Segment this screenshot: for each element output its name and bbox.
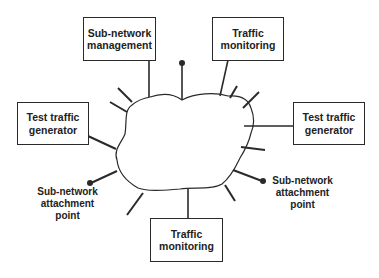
test-traffic-generator-left-box: Test traffic generator xyxy=(17,102,89,145)
attachment-left-line1: Sub-network xyxy=(30,186,105,198)
traffic-monitoring-top-box: Traffic monitoring xyxy=(212,17,284,61)
attachment-line-left xyxy=(91,171,117,183)
test-traffic-generator-left-label-line2: generator xyxy=(27,124,80,137)
sub-network-cloud xyxy=(116,94,254,191)
spoke xyxy=(127,193,143,215)
attachment-right-line2: attachment xyxy=(265,187,340,199)
connector-test-traffic-generator-left xyxy=(88,136,116,149)
attachment-right-line1: Sub-network xyxy=(265,175,340,187)
network-diagram: Sub-network management Traffic monitorin… xyxy=(0,0,379,278)
attachment-line-right xyxy=(233,170,262,181)
test-traffic-generator-left-label-line1: Test traffic xyxy=(27,111,80,124)
traffic-monitoring-bottom-label-line1: Traffic xyxy=(159,228,214,241)
traffic-monitoring-top-label-line2: monitoring xyxy=(221,39,276,52)
sub-network-management-label-line2: management xyxy=(87,39,152,52)
spoke xyxy=(225,185,235,201)
traffic-monitoring-top-label-line1: Traffic xyxy=(221,27,276,40)
test-traffic-generator-right-box: Test traffic generator xyxy=(293,102,365,145)
traffic-monitoring-bottom-label-line2: monitoring xyxy=(159,240,214,253)
sub-network-management-box: Sub-network management xyxy=(83,17,156,61)
connector-traffic-monitoring-top xyxy=(220,60,228,96)
attachment-left-line2: attachment xyxy=(30,198,105,210)
traffic-monitoring-bottom-box: Traffic monitoring xyxy=(150,218,223,262)
attachment-point-right-label: Sub-network attachment point xyxy=(265,175,340,211)
test-traffic-generator-right-label-line1: Test traffic xyxy=(303,111,356,124)
test-traffic-generator-right-label-line2: generator xyxy=(303,124,356,137)
attachment-right-line3: point xyxy=(265,199,340,211)
attachment-left-line3: point xyxy=(30,210,105,222)
spoke xyxy=(118,88,132,102)
attachment-dot-top xyxy=(179,60,185,66)
spoke xyxy=(110,102,127,112)
attachment-point-left-label: Sub-network attachment point xyxy=(30,186,105,222)
sub-network-management-label-line1: Sub-network xyxy=(87,27,152,40)
